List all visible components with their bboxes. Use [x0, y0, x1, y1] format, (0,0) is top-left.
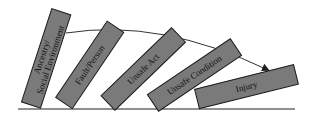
domino-theory-diagram: Ancestry/ Social Environment Fault/Perso…	[0, 0, 313, 117]
diagram-canvas: Ancestry/ Social Environment Fault/Perso…	[0, 0, 313, 117]
